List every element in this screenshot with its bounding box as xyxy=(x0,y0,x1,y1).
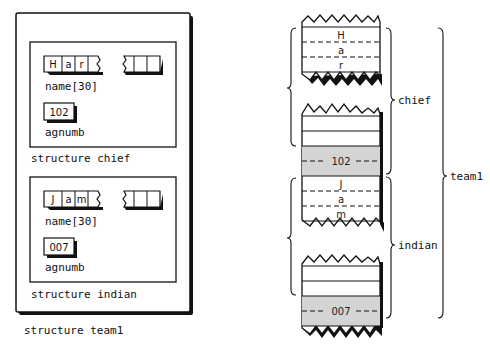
indian-agnumb-value: 007 xyxy=(49,242,68,253)
indian-structure-box: J a m name[30] 007 agnumb xyxy=(30,177,176,282)
mem-chief-char-1: a xyxy=(338,45,344,56)
right-brace-indian xyxy=(386,177,395,318)
mem-chief-agnumb: 102 xyxy=(331,156,350,167)
indian-structure-label: structure indian xyxy=(31,288,137,301)
chief-member-label: chief xyxy=(398,94,431,107)
memory-diagram: H a r name[30] 102 agnumb structure chie… xyxy=(0,0,490,353)
team1-member-label: team1 xyxy=(450,170,483,183)
mem-indian-char-0: J xyxy=(339,179,343,190)
indian-name-array-tail xyxy=(123,191,163,210)
right-brace-chief xyxy=(386,28,395,174)
right-brace-team1 xyxy=(438,28,447,318)
chief-name-field-label: name[30] xyxy=(45,80,98,93)
indian-member-label: indian xyxy=(398,239,438,252)
chief-name-array-tail xyxy=(123,56,163,75)
indian-name-char-0: J xyxy=(51,194,55,205)
indian-name-field-label: name[30] xyxy=(45,215,98,228)
chief-agnumb-label: agnumb xyxy=(45,126,85,139)
left-brace-indian xyxy=(287,178,296,295)
chief-name-char-0: H xyxy=(49,59,57,70)
chief-agnumb-box: 102 xyxy=(44,103,77,123)
chief-name-array: H a r xyxy=(44,56,103,75)
memory-block-chief-name: H a r xyxy=(302,15,382,86)
chief-structure-label: structure chief xyxy=(31,152,130,165)
indian-name-array: J a m xyxy=(44,191,103,210)
mem-chief-char-0: H xyxy=(337,30,345,41)
left-brace-chief xyxy=(287,28,296,146)
memory-block-chief-agnumb-indian-name: 102 J a m xyxy=(302,104,384,232)
chief-name-char-1: a xyxy=(65,59,71,70)
mem-indian-char-2: m xyxy=(336,209,346,220)
chief-structure-box: H a r name[30] 102 agnumb xyxy=(30,42,176,147)
indian-agnumb-label: agnumb xyxy=(45,261,85,274)
indian-name-char-1: a xyxy=(65,194,71,205)
chief-agnumb-value: 102 xyxy=(49,107,68,118)
mem-indian-char-1: a xyxy=(338,194,344,205)
indian-agnumb-box: 007 xyxy=(44,238,77,258)
memory-block-indian-agnumb: 007 xyxy=(302,255,383,338)
mem-indian-agnumb: 007 xyxy=(331,306,350,317)
indian-name-char-2: m xyxy=(77,194,87,205)
team1-structure-label: structure team1 xyxy=(24,324,123,337)
